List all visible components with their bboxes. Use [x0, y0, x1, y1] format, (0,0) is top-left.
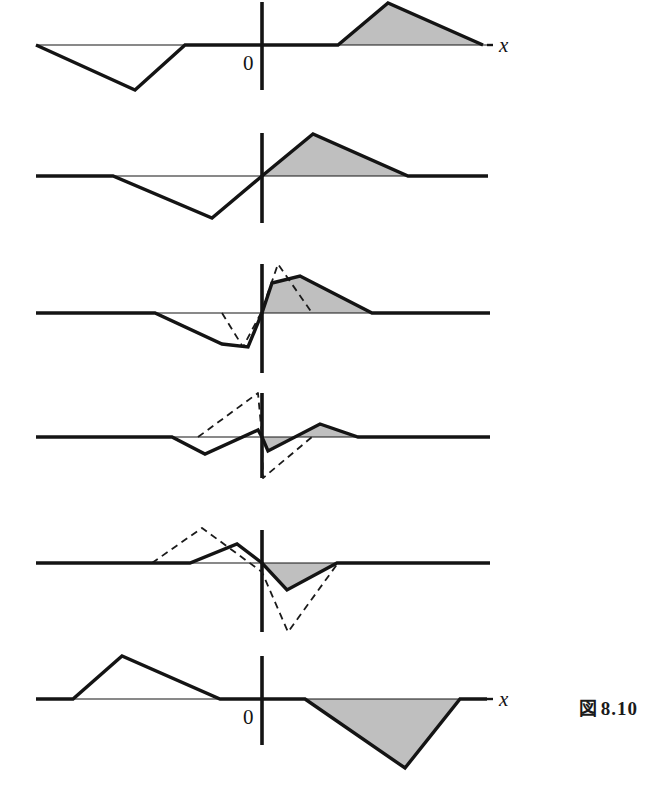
panel-6 — [36, 656, 493, 768]
panel-1-signal-curve — [36, 3, 483, 90]
panel-1-x-axis-label: x — [498, 33, 509, 57]
panel-1-origin-label: 0 — [243, 51, 254, 75]
caption-number: 8.10 — [601, 698, 638, 719]
panel-6-shaded-region — [305, 699, 460, 768]
panel-4 — [36, 393, 490, 478]
figure-container: x0x0 図8.10 — [0, 0, 646, 791]
panel-1-shaded-region — [338, 3, 483, 45]
panel-3 — [36, 264, 490, 373]
panel-2-shaded-region — [262, 134, 408, 176]
panel-2 — [36, 133, 488, 223]
panels-group — [36, 2, 493, 768]
panel-5-dashed-kernel — [152, 528, 338, 632]
caption-kanji-glyph: 図 — [579, 698, 598, 719]
panel-6-x-axis-label: x — [498, 687, 509, 711]
panel-1 — [36, 2, 493, 90]
panel-5 — [36, 528, 490, 632]
figure-canvas: x0x0 — [0, 0, 646, 791]
figure-caption: 図8.10 — [579, 694, 638, 720]
figure-text-group: x0x0 — [243, 33, 509, 729]
panel-6-origin-label: 0 — [243, 705, 254, 729]
